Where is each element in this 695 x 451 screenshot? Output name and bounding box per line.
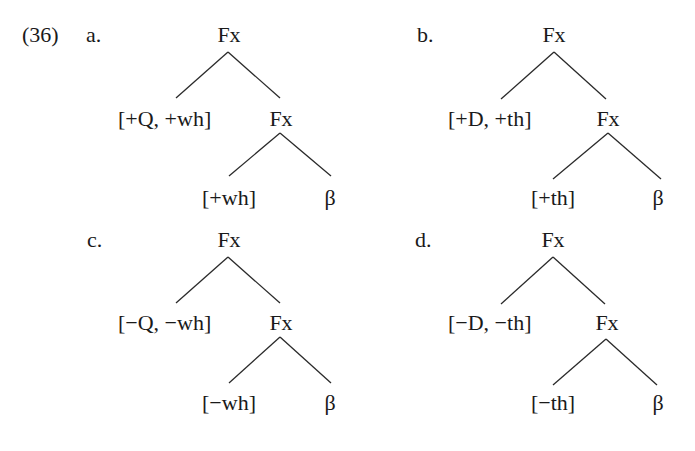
intermediate-node: Fx (596, 108, 619, 130)
intermediate-node: Fx (595, 312, 618, 334)
root-node: Fx (217, 24, 240, 46)
head-node: [+wh] (202, 187, 256, 209)
head-node: [−th] (531, 392, 575, 414)
tree-branches (0, 0, 695, 451)
complement-node: β (324, 392, 335, 414)
head-node: [+th] (531, 187, 575, 209)
tree-label: d. (415, 229, 432, 251)
specifier-node: [−Q, −wh] (118, 312, 211, 334)
root-node: Fx (542, 24, 565, 46)
intermediate-node: Fx (269, 108, 292, 130)
specifier-node: [−D, −th] (448, 312, 531, 334)
tree-label: c. (87, 229, 102, 251)
tree-label: b. (417, 24, 434, 46)
tree-label: a. (86, 24, 101, 46)
complement-node: β (652, 187, 663, 209)
head-node: [−wh] (202, 392, 256, 414)
specifier-node: [+D, +th] (448, 108, 531, 130)
root-node: Fx (217, 229, 240, 251)
root-node: Fx (541, 229, 564, 251)
complement-node: β (652, 392, 663, 414)
example-number: (36) (22, 24, 59, 46)
specifier-node: [+Q, +wh] (118, 108, 211, 130)
intermediate-node: Fx (269, 312, 292, 334)
complement-node: β (324, 187, 335, 209)
